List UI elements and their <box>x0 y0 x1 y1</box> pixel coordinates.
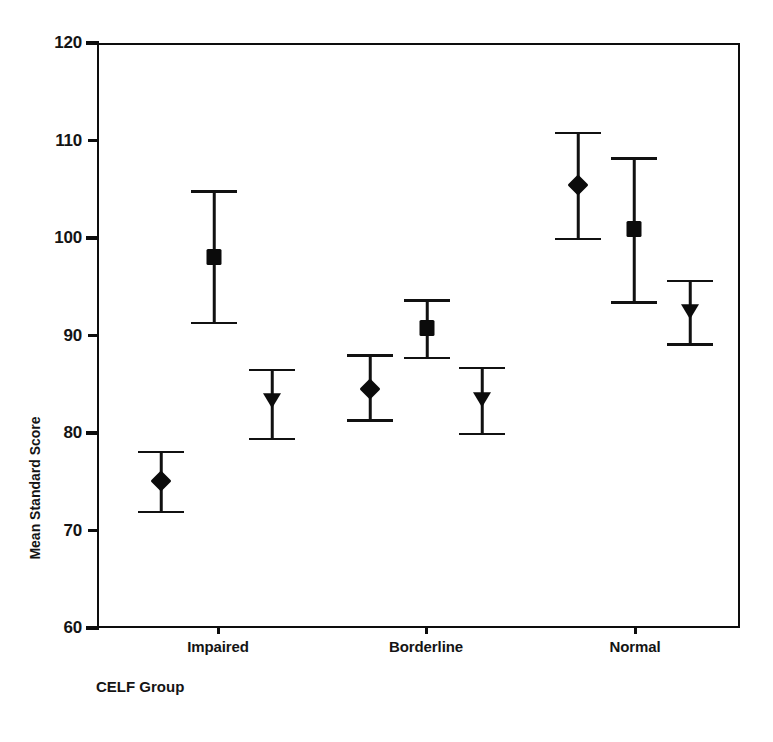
y-axis-title: Mean Standard Score <box>27 398 43 578</box>
error-bar <box>345 352 395 423</box>
error-bar-cap-upper <box>555 132 601 135</box>
error-bar-cap-upper <box>611 157 657 160</box>
error-bar-cap-lower <box>459 433 505 436</box>
error-bar-cap-upper <box>459 367 505 370</box>
data-point-marker-square <box>420 320 435 336</box>
y-axis-tick-label-wrap: 60 <box>30 618 82 636</box>
error-bar-cap-upper <box>667 280 713 283</box>
y-axis-tick-label-wrap: 120 <box>30 33 82 51</box>
data-point-marker-triangle-down <box>473 392 491 407</box>
error-bar <box>553 130 603 242</box>
data-point-marker-diamond <box>359 379 380 400</box>
data-point-marker-triangle-down <box>263 393 281 408</box>
x-axis-title: CELF Group <box>96 678 184 695</box>
y-axis-tick-label: 60 <box>36 618 82 638</box>
x-axis-category-label: Borderline <box>389 638 463 655</box>
x-axis-category-label: Normal <box>609 638 660 655</box>
error-bar-cap-upper <box>191 190 237 193</box>
y-axis-tick <box>88 334 99 337</box>
error-bar-cap-lower <box>667 343 713 346</box>
error-bar-cap-lower <box>249 438 295 441</box>
y-axis-tick-label: 120 <box>36 33 82 53</box>
error-bar <box>189 188 239 326</box>
data-point-marker-square <box>207 249 222 265</box>
y-axis-tick-label: 110 <box>36 131 82 151</box>
y-axis-tick-label-wrap: 100 <box>30 228 82 246</box>
error-bar <box>665 278 715 347</box>
error-bar-cap-lower <box>191 322 237 325</box>
error-bar-cap-upper <box>249 369 295 372</box>
x-axis-tick <box>425 628 428 634</box>
error-bar <box>609 155 659 305</box>
error-bar-cap-lower <box>347 419 393 422</box>
x-axis-category-label: Impaired <box>187 638 249 655</box>
y-axis-tick <box>88 529 99 532</box>
data-point-marker-diamond <box>150 470 171 491</box>
y-axis-tick-label: 100 <box>36 228 82 248</box>
error-bar <box>247 367 297 442</box>
data-point-marker-diamond <box>567 175 588 196</box>
y-axis-tick <box>86 236 99 240</box>
error-bar-cap-lower <box>404 357 450 360</box>
error-bar-cap-lower <box>611 301 657 304</box>
data-point-marker-triangle-down <box>681 304 699 319</box>
error-bar-cap-lower <box>555 238 601 241</box>
error-bar <box>136 449 186 515</box>
error-bar-cap-upper <box>347 354 393 357</box>
y-axis-tick-label-wrap: 90 <box>30 326 82 344</box>
y-axis-tick <box>88 139 99 142</box>
y-axis-tick <box>86 41 99 45</box>
error-bar <box>402 297 452 361</box>
y-axis-tick-label-wrap: 110 <box>30 131 82 149</box>
y-axis-tick <box>86 626 99 630</box>
x-axis-tick <box>217 628 220 634</box>
data-point-marker-square <box>627 221 642 237</box>
y-axis-tick-label: 90 <box>36 326 82 346</box>
chart-canvas: 60708090100110120 ImpairedBorderlineNorm… <box>0 0 773 742</box>
y-axis-tick <box>86 431 99 435</box>
error-bar <box>457 365 507 437</box>
error-bar-cap-upper <box>138 451 184 454</box>
x-axis-tick <box>634 628 637 634</box>
error-bar-cap-lower <box>138 511 184 514</box>
error-bar-cap-upper <box>404 299 450 302</box>
